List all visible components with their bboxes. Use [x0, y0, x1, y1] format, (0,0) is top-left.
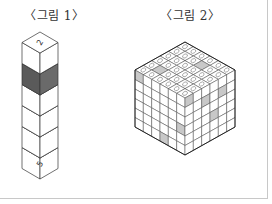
figure-2-big-cube — [0, 0, 272, 204]
